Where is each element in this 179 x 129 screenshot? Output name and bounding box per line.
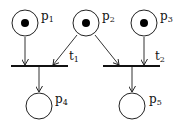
label-t2: t2 (155, 49, 165, 64)
label-p2: p2 (102, 9, 115, 24)
arc-p2-t2 (95, 35, 119, 65)
token-p2 (82, 19, 90, 27)
label-p5: p5 (149, 92, 162, 107)
label-t1: t1 (69, 49, 79, 64)
label-p1: p1 (41, 9, 54, 24)
petri-net-diagram: p1 p2 p3 p4 p5 t1 t2 (0, 0, 179, 129)
label-p3: p3 (160, 9, 173, 24)
place-p4 (26, 93, 52, 119)
arcs (25, 35, 144, 92)
place-p5 (119, 93, 145, 119)
label-p4: p4 (55, 92, 68, 107)
token-p1 (21, 19, 29, 27)
token-p3 (140, 19, 148, 27)
